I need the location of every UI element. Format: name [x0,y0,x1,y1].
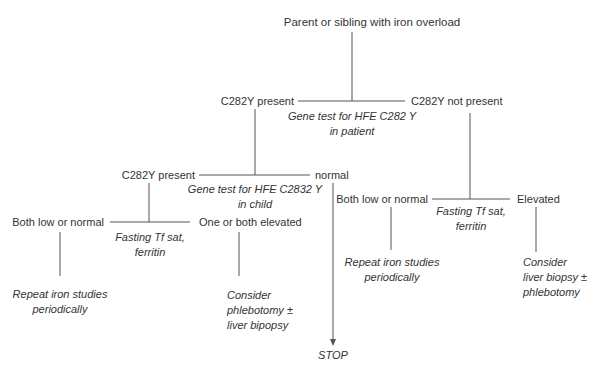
patient-consider-line2: liver biopsy ± [523,270,587,285]
patient-low-label: Both low or normal [336,192,428,207]
child-normal-label: normal [315,168,349,183]
child-present-label: C282Y present [122,168,195,183]
child-gene-test-line2: in child [188,197,322,212]
child-gene-test-label: Gene test for HFE C2832 Y in child [188,182,322,212]
patient-consider-line3: phlebotomy [523,285,587,300]
patient-elevated-label: Elevated [517,192,560,207]
patient-consider-action: Consider liver biopsy ± phlebotomy [523,255,587,300]
child-iron-test-line1: Fasting Tf sat, [115,230,185,245]
stop-node: STOP [318,348,348,363]
child-consider-line2: phlebotomy ± [227,303,293,318]
child-gene-test-line1: Gene test for HFE C2832 Y [188,182,322,197]
child-consider-line1: Consider [227,288,293,303]
child-iron-test-label: Fasting Tf sat, ferritin [115,230,185,260]
child-elevated-label: One or both elevated [199,215,302,230]
patient-repeat-line1: Repeat iron studies [345,255,440,270]
child-repeat-line2: periodically [13,302,108,317]
child-consider-action: Consider phlebotomy ± liver bipopsy [227,288,293,333]
arrowhead-icon [330,339,336,346]
child-repeat-line1: Repeat iron studies [13,287,108,302]
patient-consider-line1: Consider [523,255,587,270]
patient-iron-test-line1: Fasting Tf sat, [436,204,506,219]
patient-iron-test-line2: ferritin [436,219,506,234]
patient-present-label: C282Y present [221,94,294,109]
child-iron-test-line2: ferritin [115,245,185,260]
child-consider-line3: liver bipopsy [227,318,293,333]
patient-gene-test-line1: Gene test for HFE C282 Y [288,109,416,124]
patient-repeat-line2: periodically [345,270,440,285]
child-repeat-action: Repeat iron studies periodically [13,287,108,317]
patient-repeat-action: Repeat iron studies periodically [345,255,440,285]
patient-iron-test-label: Fasting Tf sat, ferritin [436,204,506,234]
patient-gene-test-label: Gene test for HFE C282 Y in patient [288,109,416,139]
patient-gene-test-line2: in patient [288,124,416,139]
patient-not-present-label: C282Y not present [411,94,503,109]
child-low-label: Both low or normal [12,215,104,230]
root-node: Parent or sibling with iron overload [284,15,460,30]
